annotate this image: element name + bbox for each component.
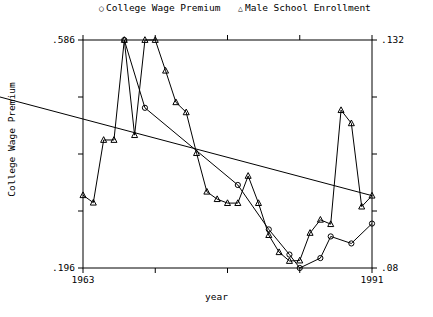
series-line bbox=[362, 196, 372, 207]
series-line bbox=[155, 40, 165, 71]
data-point-circle bbox=[328, 234, 333, 239]
x-tick-label: 1991 bbox=[356, 275, 388, 285]
series-line bbox=[258, 203, 268, 235]
chart-root: ○College Wage Premium △Male School Enrol… bbox=[0, 0, 433, 317]
series-line bbox=[269, 229, 290, 254]
series-line bbox=[351, 224, 372, 244]
series-line bbox=[124, 40, 134, 135]
data-point-triangle bbox=[245, 173, 251, 179]
y-tick-label-right: .132 bbox=[381, 35, 429, 45]
series-line bbox=[124, 40, 145, 108]
series-line bbox=[166, 71, 176, 103]
series-line bbox=[248, 176, 258, 203]
y-tick-label-right: .08 bbox=[381, 263, 429, 273]
y-tick-label-left: .586 bbox=[30, 35, 75, 45]
series-line bbox=[300, 233, 310, 261]
series-line bbox=[176, 102, 186, 112]
series-line bbox=[238, 176, 248, 203]
series-line bbox=[114, 40, 124, 140]
series-line bbox=[351, 123, 361, 206]
x-tick-label: 1963 bbox=[67, 275, 99, 285]
series-line bbox=[197, 153, 207, 192]
series-line bbox=[93, 140, 103, 203]
series-line bbox=[320, 236, 330, 258]
series-line bbox=[145, 108, 238, 185]
series-line bbox=[135, 40, 145, 135]
data-point-triangle bbox=[317, 216, 323, 222]
plot-frame bbox=[83, 40, 372, 268]
y-tick-label-left: .196 bbox=[30, 263, 75, 273]
series-line bbox=[331, 110, 341, 224]
series-line bbox=[331, 236, 352, 243]
